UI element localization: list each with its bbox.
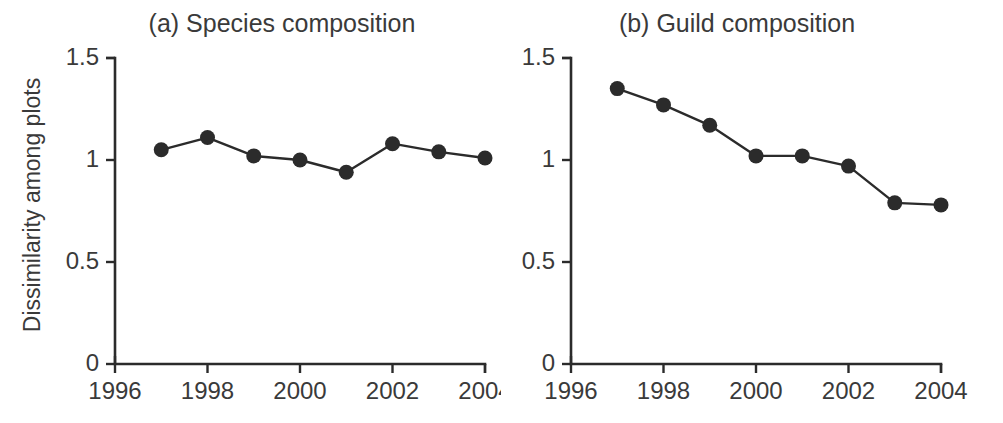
- panel-title: (a) Species composition: [149, 9, 416, 37]
- y-tick-label: 1: [542, 145, 555, 172]
- x-tick-label: 2004: [914, 377, 967, 404]
- data-point[interactable]: [339, 165, 354, 180]
- chart-panel-b: 00.511.519961998200020022004(b) Guild co…: [501, 0, 1003, 423]
- y-tick-label: 1.5: [66, 43, 99, 70]
- x-tick-label: 1996: [544, 377, 597, 404]
- chart-b-root: 00.511.519961998200020022004(b) Guild co…: [522, 9, 968, 404]
- axis-lines: [115, 58, 485, 364]
- data-point[interactable]: [200, 130, 215, 145]
- y-axis-title: Dissimilarity among plots: [19, 78, 45, 332]
- data-point[interactable]: [246, 148, 261, 163]
- data-point[interactable]: [656, 97, 671, 112]
- y-tick-label: 0.5: [522, 247, 555, 274]
- x-tick-label: 1996: [88, 377, 141, 404]
- data-point[interactable]: [795, 148, 810, 163]
- x-tick-label: 2000: [729, 377, 782, 404]
- data-point[interactable]: [702, 118, 717, 133]
- chart-svg-b: 00.511.519961998200020022004(b) Guild co…: [501, 0, 1003, 423]
- data-point[interactable]: [478, 150, 493, 165]
- chart-a-root: 00.511.519961998200020022004(a) Species …: [19, 9, 501, 404]
- x-tick-label: 2002: [822, 377, 875, 404]
- data-point[interactable]: [610, 81, 625, 96]
- data-point[interactable]: [431, 144, 446, 159]
- y-tick-label: 1: [86, 145, 99, 172]
- figure-panel-container: 00.511.519961998200020022004(a) Species …: [0, 0, 1003, 423]
- x-tick-label: 2000: [273, 377, 326, 404]
- x-tick-label: 2002: [366, 377, 419, 404]
- data-point[interactable]: [385, 136, 400, 151]
- y-tick-label: 0: [542, 349, 555, 376]
- y-tick-label: 0.5: [66, 247, 99, 274]
- y-tick-label: 0: [86, 349, 99, 376]
- chart-svg-a: 00.511.519961998200020022004(a) Species …: [0, 0, 501, 423]
- axis-lines: [571, 58, 941, 364]
- data-point[interactable]: [749, 148, 764, 163]
- data-point[interactable]: [934, 197, 949, 212]
- x-tick-label: 1998: [181, 377, 234, 404]
- y-tick-label: 1.5: [522, 43, 555, 70]
- data-point[interactable]: [887, 195, 902, 210]
- x-tick-label: 1998: [637, 377, 690, 404]
- data-point[interactable]: [293, 153, 308, 168]
- data-point[interactable]: [154, 142, 169, 157]
- x-tick-label: 2004: [458, 377, 501, 404]
- data-point[interactable]: [841, 159, 856, 174]
- chart-panel-a: 00.511.519961998200020022004(a) Species …: [0, 0, 501, 423]
- panel-title: (b) Guild composition: [619, 9, 855, 37]
